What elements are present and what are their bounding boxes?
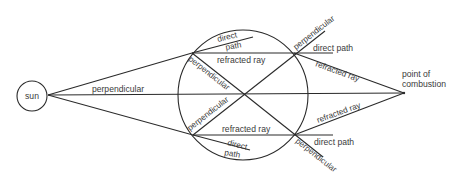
- upper-refracted-outside-label: refracted ray: [314, 59, 361, 83]
- upper-right-perpendicular: [193, 31, 325, 135]
- lower-refracted-outside-label: refracted ray: [316, 100, 363, 124]
- upper-direct-label-2: path: [225, 40, 243, 52]
- incoming-ray-lower: [48, 95, 193, 135]
- lower-refracted-ray-outside: [294, 93, 404, 135]
- focal-point-label-line1: point of: [402, 69, 431, 79]
- lower-refracted-inside-label: refracted ray: [222, 124, 271, 134]
- central-perpendicular-label: perpendicular: [92, 84, 144, 94]
- focal-point-marker: [403, 92, 405, 94]
- upper-refracted-inside-label: refracted ray: [217, 55, 266, 65]
- sun-label: sun: [25, 91, 39, 101]
- refraction-diagram: sun perpendicular direct path refracted …: [0, 0, 471, 191]
- upper-direct-path-outside-label: direct path: [313, 43, 353, 53]
- lower-direct-path-outside-label: direct path: [314, 137, 354, 147]
- focal-point-label-line2: combustion: [402, 79, 446, 89]
